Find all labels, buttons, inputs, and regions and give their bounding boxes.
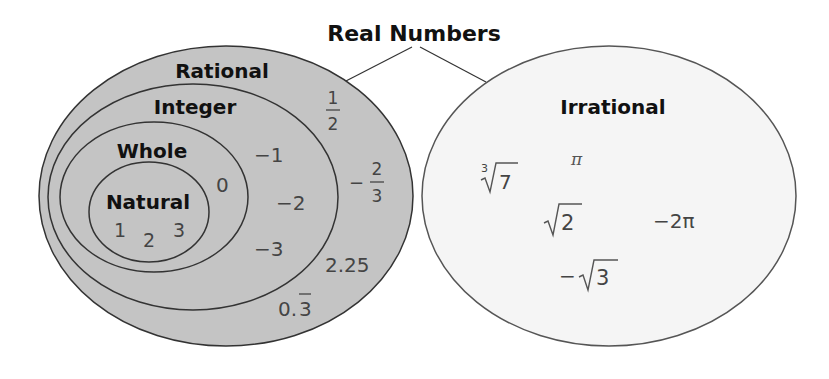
natural-member-1: 1 <box>114 219 126 241</box>
root-index: 3 <box>481 162 488 175</box>
irrational-member-pi: π <box>570 149 583 169</box>
natural-label: Natural <box>106 190 190 214</box>
integer-label: Integer <box>154 95 237 119</box>
fraction-numerator: 2 <box>372 159 383 179</box>
irrational-label: Irrational <box>560 95 665 119</box>
real-numbers-venn-diagram: Real Numbers Rational Integer Whole Natu… <box>0 0 829 379</box>
fraction-numerator: 1 <box>328 88 339 108</box>
natural-member-3: 3 <box>173 219 185 241</box>
radicand: 7 <box>499 170 512 194</box>
rational-label: Rational <box>175 59 269 83</box>
fraction-denominator: 3 <box>372 186 383 206</box>
integer-member-neg2: −2 <box>276 191 305 215</box>
whole-label: Whole <box>117 139 187 163</box>
repeating-digit: 3 <box>299 297 312 321</box>
connector-line-irrational <box>420 47 486 82</box>
radicand: 2 <box>561 211 574 235</box>
natural-member-2: 2 <box>143 229 155 251</box>
rational-member-2-25: 2.25 <box>325 253 370 277</box>
irrational-set <box>422 46 796 346</box>
repeating-base: 0. <box>278 297 297 321</box>
radicand: 3 <box>596 266 609 290</box>
fraction-sign: − <box>349 172 364 193</box>
irrational-member-neg-2pi: −2π <box>653 209 695 233</box>
rational-member-repeating-decimal: 0. 3 <box>278 294 312 321</box>
whole-member-0: 0 <box>216 173 229 197</box>
sign: − <box>559 264 576 288</box>
integer-member-neg3: −3 <box>254 237 283 261</box>
fraction-denominator: 2 <box>328 114 339 134</box>
connector-line-rational <box>344 47 412 82</box>
integer-member-neg1: −1 <box>254 143 283 167</box>
diagram-title: Real Numbers <box>327 21 501 46</box>
